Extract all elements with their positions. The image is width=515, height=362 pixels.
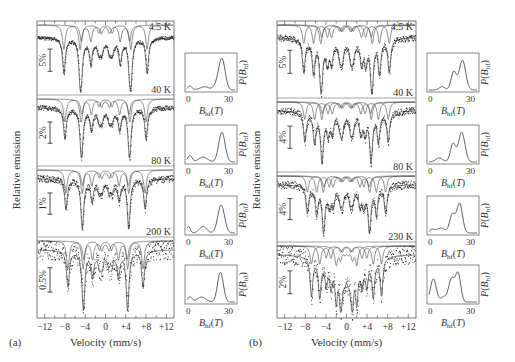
subspectrum-curve <box>38 170 174 193</box>
hyperfine-distribution-inset: 030Bhf(T)P(Bhf) <box>427 196 492 261</box>
fit-curve <box>278 255 416 312</box>
x-tick-label: +4 <box>362 322 372 332</box>
inset-tick-label: 30 <box>224 237 234 247</box>
x-tick-label: 0 <box>103 322 108 332</box>
inset-tick-label: 30 <box>224 166 234 176</box>
inset-tick-label: 0 <box>428 94 433 104</box>
x-tick-label: +8 <box>141 322 151 332</box>
inset-tick-label: 0 <box>428 166 433 176</box>
temperature-label: 80 K <box>151 155 172 166</box>
inset-tick-label: 30 <box>466 237 476 247</box>
inset-tick-label: 0 <box>186 237 191 247</box>
subspectrum-curve <box>278 246 416 266</box>
temperature-label: 4.5 K <box>149 21 172 32</box>
inset-tick-label: 0 <box>186 94 191 104</box>
panel-label: (b) <box>249 336 262 349</box>
x-tick-label: 0 <box>344 322 349 332</box>
scale-bar-label: 4% <box>278 131 288 144</box>
inset-x-label: Bhf(T) <box>441 177 465 190</box>
x-tick-label: −4 <box>321 322 331 332</box>
x-tick-label: −8 <box>300 322 310 332</box>
x-tick-label: +8 <box>383 322 393 332</box>
scale-bar-label: 2% <box>278 276 288 289</box>
spectrum-200K: 200 K0.5% <box>37 226 174 313</box>
fit-curve <box>278 38 416 94</box>
distribution-curve <box>187 58 235 90</box>
x-tick-label: −12 <box>37 322 52 332</box>
panel-b: −12−8−40+4+8+12Velocity (mm/s)(b)Relativ… <box>249 21 492 349</box>
scale-bar-label: 4% <box>278 203 288 216</box>
data-points <box>278 108 417 167</box>
distribution-curve <box>187 272 235 302</box>
subspectrum-curve <box>278 176 416 192</box>
data-points <box>278 181 417 236</box>
fit-curve <box>278 185 416 234</box>
scale-bar-label: 2% <box>38 126 48 139</box>
x-tick-label: +4 <box>121 322 131 332</box>
inset-x-label: Bhf(T) <box>199 317 223 330</box>
temperature-label: 200 K <box>146 226 172 237</box>
scale-bar-label: 1% <box>38 197 48 210</box>
inset-x-label: Bhf(T) <box>441 105 465 118</box>
temperature-label: 4.5 K <box>391 21 414 32</box>
inset-tick-label: 30 <box>466 306 476 316</box>
inset-tick-label: 0 <box>428 237 433 247</box>
y-axis-label: Relative emission <box>10 130 22 209</box>
hyperfine-distribution-inset: 030Bhf(T)P(Bhf) <box>185 196 250 261</box>
inset-y-label: P(Bhf) <box>479 60 492 86</box>
x-tick-label: +12 <box>159 322 174 332</box>
inset-x-label: Bhf(T) <box>199 177 223 190</box>
distribution-curve <box>429 132 477 162</box>
inset-y-label: P(Bhf) <box>479 203 492 229</box>
distribution-curve <box>429 272 477 302</box>
inset-x-label: Bhf(T) <box>441 248 465 261</box>
inset-x-label: Bhf(T) <box>441 317 465 330</box>
x-tick-label: −4 <box>80 322 90 332</box>
y-axis-label: Relative emission <box>250 130 262 209</box>
inset-tick-label: 30 <box>466 94 476 104</box>
temperature-label: 230 K <box>388 231 414 242</box>
mossbauer-figure: −12−8−40+4+8+12Velocity (mm/s)(a)Relativ… <box>0 0 515 362</box>
spectrum-45K: 4.5 K5% <box>38 21 175 92</box>
spectrum-80K: 80 K4% <box>277 161 416 236</box>
scale-bar-label: 0.5% <box>38 270 48 290</box>
hyperfine-distribution-inset: 030Bhf(T)P(Bhf) <box>185 53 250 118</box>
data-points <box>38 106 175 161</box>
inset-y-label: P(Bhf) <box>237 203 250 229</box>
scale-bar-label: 5% <box>278 55 288 68</box>
distribution-curve <box>187 205 235 233</box>
distribution-curve <box>429 60 477 90</box>
inset-tick-label: 0 <box>186 306 191 316</box>
hyperfine-distribution-inset: 030Bhf(T)P(Bhf) <box>185 125 250 190</box>
spectrum-230K: 230 K2% <box>277 231 416 320</box>
inset-x-label: Bhf(T) <box>199 105 223 118</box>
hyperfine-distribution-inset: 030Bhf(T)P(Bhf) <box>427 53 492 118</box>
inset-tick-label: 30 <box>466 166 476 176</box>
spectrum-80K: 80 K1% <box>37 155 174 230</box>
hyperfine-distribution-inset: 030Bhf(T)P(Bhf) <box>427 125 492 190</box>
hyperfine-distribution-inset: 030Bhf(T)P(Bhf) <box>185 265 250 330</box>
x-axis-label: Velocity (mm/s) <box>311 336 383 349</box>
inset-tick-label: 0 <box>186 166 191 176</box>
subspectrum-curve <box>278 176 416 192</box>
spectrum-40K: 40 K2% <box>37 84 174 160</box>
x-tick-label: −12 <box>277 322 292 332</box>
inset-y-label: P(Bhf) <box>237 272 250 298</box>
spectrum-45K: 4.5 K5% <box>278 21 417 97</box>
x-tick-label: +12 <box>401 322 416 332</box>
x-axis-label: Velocity (mm/s) <box>70 336 142 349</box>
panel-label: (a) <box>9 336 22 349</box>
inset-tick-label: 30 <box>224 306 234 316</box>
temperature-label: 40 K <box>151 84 172 95</box>
inset-y-label: P(Bhf) <box>237 132 250 158</box>
inset-x-label: Bhf(T) <box>199 248 223 261</box>
inset-tick-label: 30 <box>224 94 234 104</box>
plot-frame <box>37 21 174 318</box>
subspectrum-curve <box>38 170 174 193</box>
hyperfine-distribution-inset: 030Bhf(T)P(Bhf) <box>427 265 492 330</box>
temperature-label: 80 K <box>393 161 414 172</box>
inset-y-label: P(Bhf) <box>479 272 492 298</box>
panel-a: −12−8−40+4+8+12Velocity (mm/s)(a)Relativ… <box>9 21 250 349</box>
data-points <box>38 176 175 231</box>
distribution-curve <box>187 132 235 162</box>
